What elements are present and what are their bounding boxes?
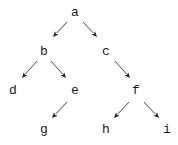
edge-a-b [57, 22, 67, 33]
edge-b-d [26, 61, 37, 74]
node-e: e [71, 83, 79, 98]
node-f: f [132, 83, 140, 98]
edge-c-f [115, 61, 126, 74]
edge-a-c [83, 22, 93, 33]
node-h: h [102, 122, 110, 137]
node-g: g [40, 122, 48, 137]
edge-b-e [51, 61, 62, 74]
node-b: b [40, 44, 48, 59]
node-a: a [71, 5, 79, 20]
edge-f-i [144, 102, 155, 114]
tree-diagram: a b c d e f g h i [0, 0, 178, 145]
edge-e-g [56, 102, 67, 114]
edges-layer [22, 22, 159, 118]
node-i: i [163, 122, 171, 137]
nodes-layer: a b c d e f g h i [9, 5, 171, 137]
node-d: d [9, 83, 17, 98]
node-c: c [102, 44, 110, 59]
edge-f-h [118, 102, 129, 114]
